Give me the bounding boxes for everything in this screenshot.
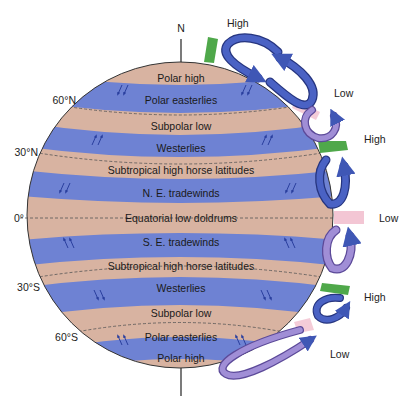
band-label-equatorial-low: Equatorial low doldrums: [125, 212, 237, 224]
band-label-polar-easterlies-n: Polar easterlies: [145, 94, 217, 106]
band-label-ne-tradewinds: N. E. tradewinds: [142, 187, 219, 199]
lat-label-30n: 30°N: [15, 146, 38, 158]
low-bar-equator: [334, 211, 364, 224]
band-label-subtropical-high-s: Subtropical high horse latitudes: [108, 260, 255, 272]
band-label-se-tradewinds: S. E. tradewinds: [143, 236, 219, 248]
pressure-label-high-30s: High: [364, 291, 386, 303]
pressure-label-low-60s: Low: [330, 348, 350, 360]
band-label-westerlies-n: Westerlies: [157, 142, 206, 154]
band-label-polar-high-n: Polar high: [157, 72, 204, 84]
pressure-label-high-30n: High: [364, 133, 386, 145]
band-label-subtropical-high-n: Subtropical high horse latitudes: [108, 164, 255, 176]
pressure-label-high-north: High: [227, 17, 249, 29]
circulation-diagram: N Polar high Polar easterlies Subpolar l…: [0, 0, 411, 399]
high-bar-north-pole: [204, 37, 218, 63]
pressure-label-low-60n: Low: [334, 87, 354, 99]
lat-label-equator: 0°: [14, 212, 24, 224]
lat-label-60s: 60°S: [55, 331, 78, 343]
band-label-westerlies-s: Westerlies: [157, 282, 206, 294]
lat-label-60n: 60°N: [53, 94, 76, 106]
band-label-subpolar-low-n: Subpolar low: [151, 120, 212, 132]
high-bar-30n: [318, 141, 348, 153]
lat-label-30s: 30°S: [17, 281, 40, 293]
band-label-polar-easterlies-s: Polar easterlies: [145, 331, 217, 343]
band-label-polar-high-s: Polar high: [157, 352, 204, 364]
band-label-subpolar-low-s: Subpolar low: [151, 307, 212, 319]
high-bar-30s: [320, 283, 350, 295]
north-label: N: [177, 22, 185, 34]
pressure-label-low-equator: Low: [379, 212, 399, 224]
